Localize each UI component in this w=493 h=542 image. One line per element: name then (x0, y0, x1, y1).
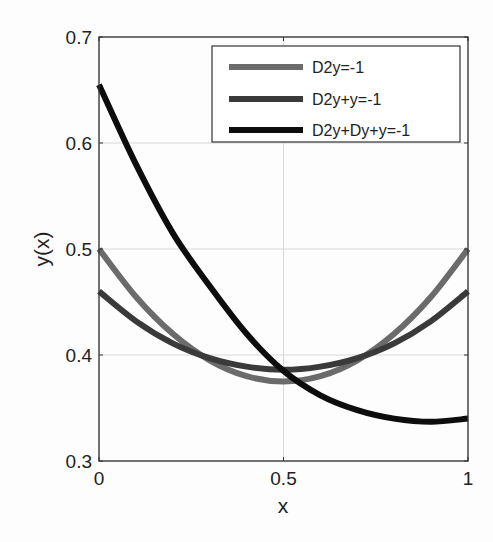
x-tick-label: 0 (94, 468, 105, 489)
y-tick-label: 0.7 (66, 27, 92, 48)
x-tick-label: 0.5 (270, 468, 296, 489)
x-axis-label: x (278, 494, 289, 517)
line-chart: 0.30.40.50.60.7 00.51 x y(x) D2y=-1 D2y+… (0, 0, 493, 542)
y-tick-labels: 0.30.40.50.60.7 (66, 27, 93, 472)
y-axis-label: y(x) (30, 232, 53, 267)
x-tick-label: 1 (463, 468, 474, 489)
legend-label-d2y-y: D2y+y=-1 (312, 91, 381, 108)
y-tick-label: 0.5 (66, 239, 92, 260)
legend: D2y=-1 D2y+y=-1 D2y+Dy+y=-1 (212, 46, 460, 142)
y-tick-label: 0.4 (66, 345, 93, 366)
y-tick-label: 0.3 (66, 451, 92, 472)
y-tick-label: 0.6 (66, 133, 92, 154)
legend-label-d2y: D2y=-1 (312, 59, 364, 76)
legend-label-d2y-dy-y: D2y+Dy+y=-1 (312, 122, 410, 139)
x-tick-labels: 00.51 (94, 468, 474, 489)
